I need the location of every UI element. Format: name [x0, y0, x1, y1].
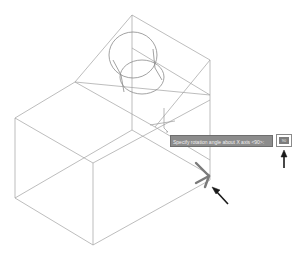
- drawing-viewport[interactable]: [0, 0, 304, 256]
- crosshair-cursor: [150, 108, 175, 132]
- callout-arrow-gizmo: [212, 187, 228, 204]
- dynamic-input-prompt: Specify rotation angle about X axis <90>…: [170, 135, 273, 147]
- wireframe-edges: [15, 15, 210, 245]
- rotation-angle-input[interactable]: 90: [276, 134, 292, 147]
- cylinder: [109, 32, 164, 94]
- callout-arrow-input: [281, 150, 287, 168]
- rotation-angle-value: 90: [279, 137, 289, 144]
- wireframe-model: [0, 0, 304, 256]
- x-axis-rotation-gizmo: [196, 163, 209, 187]
